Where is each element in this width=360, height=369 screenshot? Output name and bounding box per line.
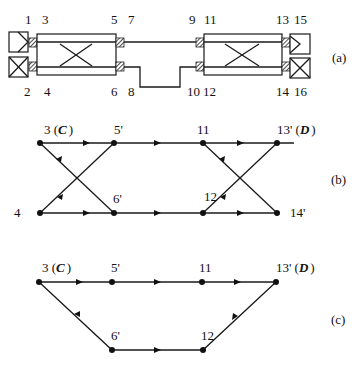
right-terminator-icon: [290, 58, 310, 78]
port-label-5: 5: [111, 12, 118, 27]
left-source-icon: [9, 32, 28, 52]
node-label-13: 13' (D): [277, 122, 316, 137]
port-label-15: 15: [294, 12, 307, 27]
port-label-8: 8: [128, 84, 135, 99]
node-label-11: 11: [197, 122, 210, 137]
node-4: [37, 210, 43, 216]
connector-5-7: [116, 38, 124, 47]
node-5: [109, 279, 115, 285]
node-label-5: 5': [114, 122, 123, 137]
node-3: [36, 279, 42, 285]
connecting-waveguides: [124, 42, 196, 87]
port-label-2: 2: [24, 84, 31, 99]
port-label-4: 4: [44, 84, 51, 99]
arrow-icon: [154, 347, 161, 353]
port-label-14: 14: [276, 84, 290, 99]
caption-c: (c): [331, 312, 345, 327]
node-label-11: 11: [199, 260, 212, 275]
arrow-icon: [237, 210, 244, 216]
arrow-icon: [234, 279, 241, 285]
left-terminator-icon: [9, 57, 28, 77]
node-6: [109, 347, 115, 353]
panel-b-signal-flow-graph: 3 (C) 5' 11 13' (D) 4 6' 12 14' (b): [14, 122, 346, 220]
node-12: [200, 347, 206, 353]
node-label-12: 12: [204, 189, 217, 204]
node-label-3: 3 (C): [44, 122, 73, 137]
connector-6-8: [116, 62, 124, 71]
port-label-10: 10: [187, 84, 200, 99]
node-label-4: 4: [14, 205, 21, 220]
node-5: [111, 140, 117, 146]
port-label-6: 6: [111, 84, 118, 99]
port-label-11: 11: [204, 12, 217, 27]
arrow-icon: [154, 210, 161, 216]
port-label-3: 3: [42, 12, 49, 27]
node-14: [274, 210, 280, 216]
right-output-icon: [290, 34, 310, 54]
node-13: [273, 279, 279, 285]
right-coupler: [204, 34, 282, 75]
node-label-5: 5': [111, 260, 120, 275]
port-label-9: 9: [189, 12, 196, 27]
connector-2-4: [29, 62, 37, 71]
node-6: [111, 210, 117, 216]
arrow-icon: [237, 140, 244, 146]
edge-bottom-path: [39, 282, 276, 350]
node-label-3: 3 (C): [42, 260, 71, 275]
caption-a: (a): [332, 50, 346, 65]
node-13: [274, 140, 280, 146]
panel-a-waveguide-schematic: 1 3 5 7 9 11 13 15 2 4 6 8 10 12 14 16: [9, 12, 346, 99]
node-3: [37, 140, 43, 146]
caption-b: (b): [331, 172, 346, 187]
node-label-6: 6': [111, 328, 120, 343]
port-label-7: 7: [128, 12, 135, 27]
node-11: [200, 140, 206, 146]
port-label-16: 16: [294, 84, 308, 99]
arrow-icon: [76, 279, 83, 285]
connector-1-3: [29, 38, 37, 47]
arrow-icon: [83, 210, 90, 216]
connector-10-12: [196, 62, 204, 71]
left-coupler: [37, 34, 116, 75]
arrow-icon: [154, 140, 161, 146]
node-label-6: 6': [113, 191, 122, 206]
arrow-icon: [154, 279, 161, 285]
node-12: [200, 210, 206, 216]
panel-c-reduced-flow-graph: 3 (C) 5' 11 13' (D) 6' 12 (c): [36, 260, 345, 353]
port-label-1: 1: [25, 12, 32, 27]
connector-14-16: [282, 62, 290, 71]
port-label-12: 12: [203, 84, 216, 99]
node-label-12: 12: [201, 328, 214, 343]
connector-9-11: [196, 38, 204, 47]
node-label-13: 13' (D): [276, 260, 315, 275]
port-label-13: 13: [276, 12, 289, 27]
arrow-icon: [83, 140, 90, 146]
node-11: [199, 279, 205, 285]
connector-13-15: [282, 38, 290, 47]
node-label-14: 14': [290, 205, 305, 220]
diagram-canvas: 1 3 5 7 9 11 13 15 2 4 6 8 10 12 14 16: [0, 0, 360, 369]
